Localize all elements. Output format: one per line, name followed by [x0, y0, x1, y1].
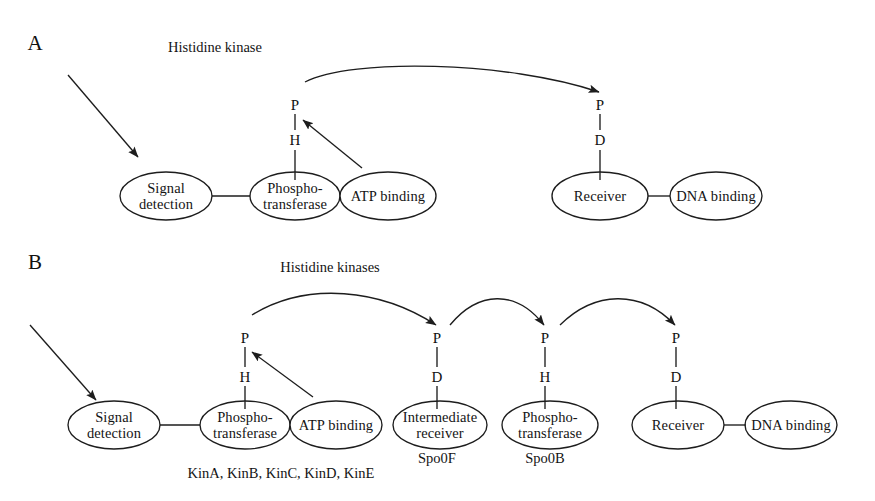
residue-b-kinase-phospho-histidine-top: P: [241, 330, 249, 347]
residue-b-spo0f-phospho-aspartate-top: P: [433, 330, 441, 347]
residue-a-kinase-phospho-histidine-top: P: [291, 97, 299, 114]
residue-b-kinase-phospho-histidine-bottom: H: [240, 369, 251, 386]
spo0b-to-spo0a-arc: [560, 299, 675, 325]
group-title-b: Histidine kinases: [280, 259, 379, 276]
residue-b-spo0a-phospho-aspartate-bottom: D: [671, 369, 682, 386]
residue-a-receiver-phospho-aspartate-bottom: D: [595, 132, 606, 149]
signal-transduction-figure: AHistidine kinaseSignal detectionPhospho…: [0, 0, 875, 501]
residue-b-spo0b-phospho-histidine-top: P: [541, 330, 549, 347]
node-label-b-atp-binding: ATP binding: [299, 417, 373, 433]
node-label-b-intermediate-receiver: Intermediate receiver: [403, 409, 477, 441]
panel-letter-b: B: [28, 250, 42, 275]
atp-transfer-arrow: [303, 120, 362, 168]
node-label-b-phosphotransferase-spo0b: Phospho- transferase: [518, 409, 582, 441]
gene-label-b-spo0b-gene: Spo0B: [525, 450, 565, 467]
node-label-b-receiver: Receiver: [652, 417, 704, 433]
residue-b-spo0a-phospho-aspartate-top: P: [672, 330, 680, 347]
panel-letter-a: A: [27, 31, 42, 56]
spo0f-to-spo0b-arc: [450, 299, 544, 325]
signal-input-arrow: [30, 325, 96, 400]
node-label-b-signal-detection: Signal detection: [87, 409, 141, 441]
node-label-a-dna-binding: DNA binding: [676, 188, 756, 204]
kinase-to-receiver-arc: [305, 66, 599, 92]
atp-transfer-arrow: [252, 352, 313, 397]
gene-label-b-kinase-gene-list: KinA, KinB, KinC, KinD, KinE: [188, 465, 375, 482]
residue-b-spo0f-phospho-aspartate-bottom: D: [432, 369, 443, 386]
node-label-a-receiver: Receiver: [574, 188, 626, 204]
node-label-b-dna-binding: DNA binding: [751, 417, 831, 433]
residue-b-spo0b-phospho-histidine-bottom: H: [540, 369, 551, 386]
node-label-b-phosphotransferase: Phospho- transferase: [213, 409, 277, 441]
signal-input-arrow: [68, 75, 138, 157]
residue-a-kinase-phospho-histidine-bottom: H: [290, 132, 301, 149]
kinase-to-spo0f-arc: [252, 293, 436, 325]
node-label-a-atp-binding: ATP binding: [351, 188, 425, 204]
residue-a-receiver-phospho-aspartate-top: P: [596, 97, 604, 114]
node-label-a-phosphotransferase: Phospho- transferase: [263, 180, 327, 212]
group-title-a: Histidine kinase: [168, 39, 262, 56]
node-label-a-signal-detection: Signal detection: [139, 180, 193, 212]
gene-label-b-spo0f-gene: Spo0F: [418, 450, 456, 467]
